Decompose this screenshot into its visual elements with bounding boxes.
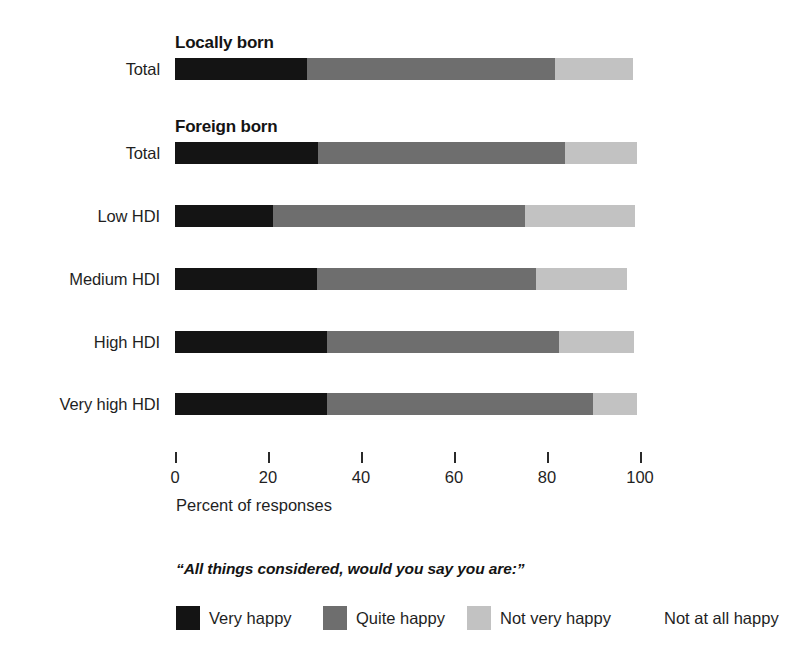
x-tick-label-80: 80 [538,468,556,487]
x-tick-40 [361,452,363,463]
bar-segment-not-at-all-happy [633,58,640,80]
x-tick-0 [175,452,177,463]
bar-segment-very-happy [175,268,317,290]
bar-segment-not-very-happy [559,331,634,353]
bar-segment-not-very-happy [565,142,637,164]
bar-segment-not-at-all-happy [635,205,640,227]
legend-swatch-very-happy [176,606,200,630]
x-tick-label-60: 60 [445,468,463,487]
bar-segment-quite-happy [318,142,565,164]
bar-segment-quite-happy [327,393,593,415]
legend-swatch-not-very-happy [467,606,491,630]
bar-segment-not-very-happy [555,58,633,80]
row-label-medium-hdi: Medium HDI [0,270,160,289]
bar-segment-very-happy [175,142,318,164]
legend-swatch-not-at-all-happy [631,606,655,630]
bar-segment-not-very-happy [536,268,627,290]
x-tick-label-100: 100 [626,468,654,487]
bar-low-hdi [175,205,640,227]
legend-swatch-quite-happy [323,606,347,630]
bar-segment-very-happy [175,58,307,80]
legend-label-not-at-all-happy: Not at all happy [664,609,779,628]
x-tick-label-40: 40 [352,468,370,487]
row-label-low-hdi: Low HDI [0,207,160,226]
bar-medium-hdi [175,268,640,290]
group-header-foreign-born: Foreign born [175,117,277,137]
x-tick-80 [547,452,549,463]
x-tick-label-20: 20 [259,468,277,487]
bar-segment-not-very-happy [593,393,637,415]
legend-label-not-very-happy: Not very happy [500,609,611,628]
x-tick-100 [640,452,642,463]
bar-very-high-hdi [175,393,640,415]
bar-segment-not-at-all-happy [627,268,640,290]
x-tick-60 [454,452,456,463]
bar-segment-not-very-happy [525,205,635,227]
x-tick-20 [268,452,270,463]
bar-segment-not-at-all-happy [634,331,640,353]
legend-item-not-at-all-happy[interactable]: Not at all happy [631,606,779,630]
row-label-foreign-born-total: Total [0,144,160,163]
bar-segment-very-happy [175,331,327,353]
bar-locally-born-total [175,58,640,80]
row-label-high-hdi: High HDI [0,333,160,352]
bar-high-hdi [175,331,640,353]
bar-segment-not-at-all-happy [637,142,640,164]
legend-item-quite-happy[interactable]: Quite happy [323,606,445,630]
legend-label-very-happy: Very happy [209,609,292,628]
bar-foreign-born-total [175,142,640,164]
row-label-very-high-hdi: Very high HDI [0,395,160,414]
legend-label-quite-happy: Quite happy [356,609,445,628]
legend-question: “All things considered, would you say yo… [176,560,798,578]
row-label-locally-born-total: Total [0,60,160,79]
bar-segment-very-happy [175,205,273,227]
bar-segment-quite-happy [317,268,536,290]
bar-segment-quite-happy [307,58,555,80]
legend-item-not-very-happy[interactable]: Not very happy [467,606,611,630]
group-header-locally-born: Locally born [175,33,274,53]
x-axis-title: Percent of responses [176,496,332,515]
bar-segment-not-at-all-happy [637,393,640,415]
bar-segment-quite-happy [273,205,525,227]
x-tick-label-0: 0 [170,468,179,487]
bar-segment-quite-happy [327,331,559,353]
stacked-bar-chart: Locally born Foreign born Total Total Lo… [0,0,798,667]
legend-item-very-happy[interactable]: Very happy [176,606,292,630]
legend: “All things considered, would you say yo… [176,560,798,578]
bar-segment-very-happy [175,393,327,415]
